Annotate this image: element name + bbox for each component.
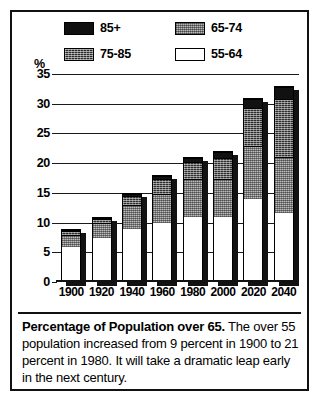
bar-segment-1960-55-64 (153, 223, 171, 281)
bar-segment-1920-65-74 (93, 223, 111, 237)
y-axis-tick-20: 20 (24, 157, 50, 170)
bar-slot-1920 (92, 74, 112, 282)
bar-segment-2020-85+ (244, 99, 262, 108)
bar-slot-1960 (152, 74, 172, 282)
bar-segment-2040-65-74 (275, 157, 293, 213)
x-axis-tick-2040: 2040 (266, 286, 302, 298)
chart-caption: Percentage of Population over 65. The ov… (22, 318, 299, 386)
bar-segment-1980-55-64 (184, 217, 202, 281)
legend-swatch-55-64-icon (175, 48, 205, 61)
bar-segment-1980-65-74 (184, 179, 202, 217)
bar-1900[interactable] (61, 229, 81, 282)
x-axis-line (56, 280, 299, 282)
bar-1960[interactable] (152, 175, 172, 282)
legend-swatch-65-74-icon (175, 22, 205, 35)
legend-label-75-85: 75-85 (100, 48, 131, 61)
y-axis-tick-25: 25 (24, 127, 50, 140)
bar-segment-1900-55-64 (62, 247, 80, 281)
legend-item-85-plus: 85+ (64, 20, 121, 36)
legend-swatch-85-plus-icon (64, 22, 94, 35)
y-axis-tick-5: 5 (24, 246, 50, 259)
bar-segment-1920-55-64 (93, 238, 111, 281)
bar-segment-2020-55-64 (244, 199, 262, 281)
bar-segment-1940-75-85 (123, 196, 141, 205)
bar-segment-2000-65-74 (214, 179, 232, 217)
bar-segment-1940-65-74 (123, 205, 141, 228)
y-axis-tick-35: 35 (24, 68, 50, 81)
bar-2000[interactable] (213, 151, 233, 282)
y-axis-tickmark-0 (52, 282, 57, 283)
bar-segment-2000-55-64 (214, 217, 232, 281)
caption-title: Percentage of Population over 65. (22, 319, 225, 334)
bar-segment-2020-65-74 (244, 146, 262, 199)
legend-label-65-74: 65-74 (211, 22, 242, 35)
bar-slot-1900 (61, 74, 81, 282)
bar-slot-2040 (274, 74, 294, 282)
caption-divider (18, 312, 301, 314)
bar-2040[interactable] (274, 86, 294, 282)
legend-swatch-75-85-icon (64, 48, 94, 61)
legend-label-85-plus: 85+ (100, 22, 121, 35)
bar-1920[interactable] (92, 217, 112, 282)
y-axis-tick-15: 15 (24, 187, 50, 200)
bar-segment-1940-55-64 (123, 229, 141, 281)
figure-frame: 85+ 65-74 75-85 55-64 % 35302520151050 1… (10, 10, 309, 391)
bar-slot-2000 (213, 74, 233, 282)
bar-segment-2040-85+ (275, 87, 293, 99)
y-axis-tick-10: 10 (24, 217, 50, 230)
bar-segment-1960-65-74 (153, 194, 171, 223)
legend-item-65-74: 65-74 (175, 20, 242, 36)
legend-item-55-64: 55-64 (175, 46, 242, 62)
chart-legend: 85+ 65-74 75-85 55-64 (50, 18, 280, 70)
legend-item-75-85: 75-85 (64, 46, 131, 62)
legend-label-55-64: 55-64 (211, 48, 242, 61)
bar-segment-1960-75-85 (153, 179, 171, 194)
bar-segment-2000-75-85 (214, 158, 232, 178)
bar-slot-1980 (183, 74, 203, 282)
bar-1980[interactable] (183, 157, 203, 282)
bar-segment-2040-55-64 (275, 213, 293, 281)
y-axis-tick-30: 30 (24, 98, 50, 111)
bar-segment-2020-75-85 (244, 108, 262, 146)
y-axis-tick-0: 0 (24, 276, 50, 289)
bar-slot-2020 (243, 74, 263, 282)
bar-segment-2040-75-85 (275, 99, 293, 158)
bar-slot-1940 (122, 74, 142, 282)
bar-segment-1900-65-74 (62, 235, 80, 246)
bar-2020[interactable] (243, 98, 263, 282)
chart-plot-area: % 35302520151050 19001920194019601980200… (12, 70, 307, 300)
bar-group (56, 74, 299, 282)
bar-segment-1980-75-85 (184, 162, 202, 178)
bar-1940[interactable] (122, 193, 142, 282)
